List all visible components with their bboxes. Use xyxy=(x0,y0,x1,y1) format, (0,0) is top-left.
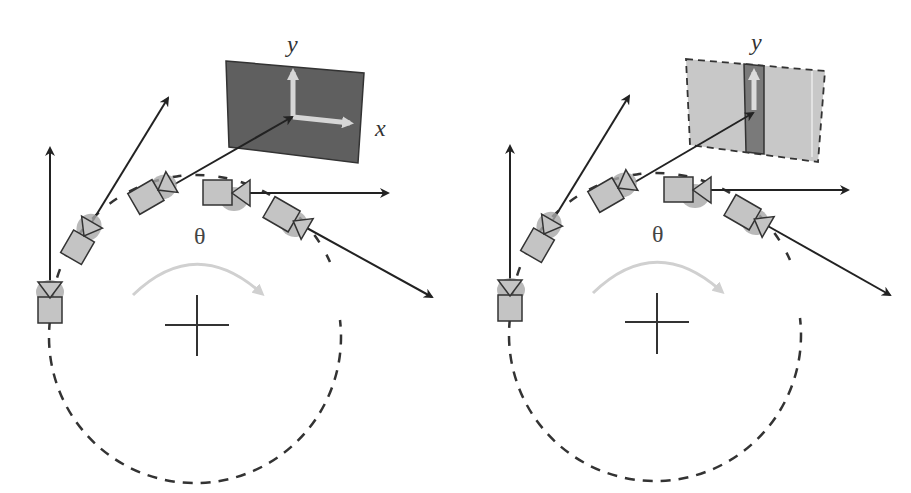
theta-label: θ xyxy=(194,224,206,248)
diagram-right xyxy=(455,0,911,493)
striped-plane xyxy=(686,59,825,162)
camera-icon xyxy=(262,197,314,242)
textured-plane xyxy=(226,61,364,163)
crosshair-icon xyxy=(165,295,229,356)
camera-icon xyxy=(203,180,250,211)
panel-right: y θ xyxy=(455,0,911,493)
curved-arrow-icon xyxy=(593,262,720,293)
camera-icon xyxy=(521,207,567,262)
y-axis-label: y xyxy=(751,30,762,54)
diagram-left xyxy=(0,0,455,493)
curved-arrow-icon xyxy=(133,264,260,295)
y-axis-label: y xyxy=(287,32,298,56)
camera-icon xyxy=(664,177,711,208)
theta-label: θ xyxy=(652,222,664,246)
camera-icon xyxy=(497,278,525,321)
camera-icon xyxy=(36,280,64,323)
panel-left: y x θ xyxy=(0,0,455,493)
crosshair-icon xyxy=(625,293,689,354)
x-axis-label: x xyxy=(375,116,386,140)
camera-icon xyxy=(723,195,775,240)
camera-icon xyxy=(61,209,107,264)
